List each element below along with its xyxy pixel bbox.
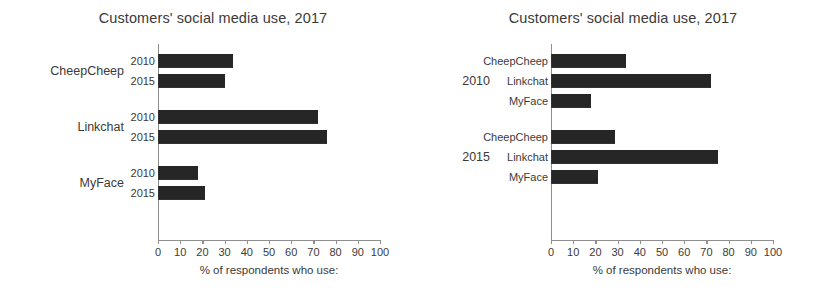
bar-row [158,54,233,68]
plot-area: CheepCheepLinkchatMyFace2010CheepCheepLi… [420,44,823,244]
group-label-2015: 2015 [420,150,490,164]
x-tick [640,240,641,244]
bar-row [551,150,718,164]
plot-area: 20102015CheepCheep20102015Linkchat201020… [0,44,420,244]
bar-2010-myface [551,94,591,108]
x-tick [773,240,774,244]
bar-row [551,130,615,144]
x-tick-label: 70 [307,246,319,258]
x-tick-label: 30 [611,246,623,258]
x-tick [729,240,730,244]
x-tick-label: 80 [722,246,734,258]
x-tick-label: 20 [196,246,208,258]
bar-2010-cheepcheep [551,54,626,68]
group-label-2010: 2010 [420,74,490,88]
x-tick [247,240,248,244]
x-tick [551,240,552,244]
bar-row [551,54,626,68]
x-tick-label: 100 [371,246,389,258]
x-tick [684,240,685,244]
group-label-myface: MyFace [0,176,124,190]
x-tick [662,240,663,244]
bar-inner-label: MyFace [420,170,548,184]
x-tick [573,240,574,244]
group-label-linkchat: Linkchat [0,120,124,134]
bar-row [551,94,591,108]
chart-page: Customers' social media use, 2017 201020… [0,0,823,294]
bar-inner-label: MyFace [420,94,548,108]
x-tick [202,240,203,244]
bar-row [551,74,711,88]
x-tick-label: 10 [567,246,579,258]
bar-row [158,130,327,144]
x-tick-label: 30 [218,246,230,258]
x-tick-label: 60 [678,246,690,258]
group-label-cheepcheep: CheepCheep [0,64,124,78]
bar-cheepcheep-2015 [158,74,225,88]
x-tick [706,240,707,244]
bar-row [158,166,198,180]
x-tick-label: 60 [285,246,297,258]
bar-2010-linkchat [551,74,711,88]
bar-inner-label: CheepCheep [420,130,548,144]
bar-linkchat-2015 [158,130,327,144]
x-tick-label: 90 [352,246,364,258]
x-tick [158,240,159,244]
chart-title: Customers' social media use, 2017 [428,10,818,26]
chart-title: Customers' social media use, 2017 [18,10,408,26]
x-tick-label: 20 [589,246,601,258]
x-tick-label: 10 [174,246,186,258]
x-axis-caption: % of respondents who use: [551,264,773,276]
x-tick [225,240,226,244]
bar-linkchat-2010 [158,110,318,124]
bar-row [158,110,318,124]
x-tick-label: 90 [745,246,757,258]
chart-figure-by-platform: Customers' social media use, 2017 201020… [0,0,420,294]
x-axis-caption: % of respondents who use: [158,264,380,276]
x-tick [751,240,752,244]
x-tick-label: 100 [764,246,782,258]
x-tick-label: 0 [548,246,554,258]
x-tick-label: 80 [329,246,341,258]
x-tick [595,240,596,244]
x-tick [269,240,270,244]
bar-row [158,186,205,200]
bar-row [551,170,598,184]
bar-rows: CheepCheepLinkchatMyFace2010CheepCheepLi… [420,44,823,240]
x-tick-label: 0 [155,246,161,258]
x-tick [313,240,314,244]
bar-myface-2015 [158,186,205,200]
chart-figure-by-year: Customers' social media use, 2017 CheepC… [420,0,823,294]
bar-rows: 20102015CheepCheep20102015Linkchat201020… [0,44,420,240]
x-tick [336,240,337,244]
x-tick [291,240,292,244]
bar-row [158,74,225,88]
x-tick [358,240,359,244]
bar-cheepcheep-2010 [158,54,233,68]
bar-inner-label: CheepCheep [420,54,548,68]
x-tick-label: 50 [656,246,668,258]
bar-2015-myface [551,170,598,184]
bar-myface-2010 [158,166,198,180]
x-tick [618,240,619,244]
bar-2015-cheepcheep [551,130,615,144]
x-tick [380,240,381,244]
bar-2015-linkchat [551,150,718,164]
x-tick-label: 50 [263,246,275,258]
x-tick-label: 70 [700,246,712,258]
x-tick [180,240,181,244]
x-tick-label: 40 [241,246,253,258]
x-tick-label: 40 [634,246,646,258]
